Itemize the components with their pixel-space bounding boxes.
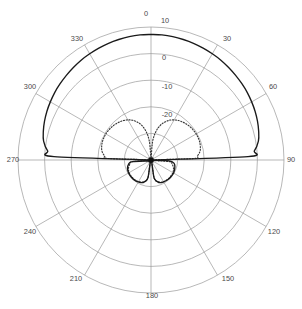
- angle-label-270: 270: [7, 155, 19, 164]
- radial-tick-labels: 10 0 -10 -20: [161, 16, 172, 119]
- angle-label-0: 0: [144, 9, 148, 18]
- angle-label-90: 90: [287, 155, 295, 164]
- radial-label-0: 0: [162, 53, 166, 62]
- angle-label-330: 330: [71, 34, 83, 43]
- center-origin-marker: [149, 158, 154, 163]
- angle-label-120: 120: [268, 227, 280, 236]
- angle-label-60: 60: [269, 82, 277, 91]
- angle-label-150: 150: [222, 274, 234, 283]
- polar-radiation-pattern-chart: 0 30 60 90 120 150 180 210 240 270 300 3…: [0, 0, 302, 309]
- angle-label-210: 210: [70, 274, 82, 283]
- radial-label-10: 10: [161, 16, 169, 25]
- angle-label-180: 180: [146, 291, 158, 300]
- angle-label-300: 300: [24, 82, 36, 91]
- radial-label-m20: -20: [162, 110, 173, 119]
- polar-plot-svg: 0 30 60 90 120 150 180 210 240 270 300 3…: [0, 0, 302, 309]
- radial-label-m10: -10: [162, 82, 173, 91]
- angle-label-240: 240: [24, 227, 36, 236]
- angle-label-30: 30: [223, 34, 231, 43]
